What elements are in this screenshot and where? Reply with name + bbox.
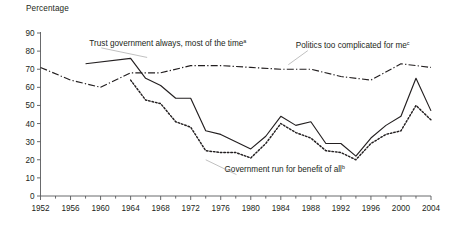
- x-tick-label: 2004: [422, 204, 441, 213]
- y-axis-tick-labels: 0102030405060708090: [25, 29, 35, 201]
- x-tick-label: 1960: [91, 204, 110, 213]
- x-axis-tick-labels: 1952195619601964196819721976198019841988…: [31, 204, 440, 213]
- y-tick-label: 10: [25, 174, 35, 183]
- x-tick-label: 1972: [182, 204, 201, 213]
- data-series-layer: [41, 58, 432, 159]
- percentage-trend-chart: Percentage 0102030405060708090 195219561…: [0, 0, 452, 233]
- y-axis-ticks: [37, 33, 41, 196]
- x-tick-label: 1988: [302, 204, 321, 213]
- y-tick-label: 50: [25, 101, 35, 110]
- chart-canvas: 0102030405060708090 19521956196019641968…: [0, 0, 452, 233]
- x-tick-label: 2000: [392, 204, 411, 213]
- x-tick-label: 1992: [332, 204, 351, 213]
- x-tick-label: 1996: [362, 204, 381, 213]
- x-tick-label: 1984: [272, 204, 291, 213]
- politics-complicated-label-leader: [288, 51, 308, 65]
- x-tick-label: 1980: [242, 204, 261, 213]
- x-tick-label: 1964: [122, 204, 141, 213]
- x-tick-label: 1968: [152, 204, 171, 213]
- x-tick-label: 1952: [31, 204, 50, 213]
- y-tick-label: 60: [25, 83, 35, 92]
- y-tick-label: 40: [25, 120, 35, 129]
- series-line-1: [41, 64, 432, 88]
- annotation-layer: Trust government always, most of the tim…: [89, 38, 410, 175]
- y-axis-group: 0102030405060708090: [25, 29, 40, 201]
- y-tick-label: 0: [30, 192, 35, 201]
- y-tick-label: 30: [25, 138, 35, 147]
- x-tick-label: 1956: [61, 204, 80, 213]
- trust-government-label: Trust government always, most of the tim…: [89, 38, 246, 48]
- y-tick-label: 90: [25, 29, 35, 38]
- y-tick-label: 80: [25, 47, 35, 56]
- y-tick-label: 20: [25, 156, 35, 165]
- government-benefit-all-label: Government run for benefit of allb: [224, 164, 344, 174]
- x-axis-ticks: [41, 196, 432, 200]
- politics-complicated-label: Politics too complicated for mec: [296, 40, 410, 50]
- x-axis-group: 1952195619601964196819721976198019841988…: [31, 196, 440, 213]
- trust-government-label-leader: [101, 48, 147, 58]
- x-tick-label: 1976: [212, 204, 231, 213]
- series-line-2: [131, 80, 431, 160]
- y-tick-label: 70: [25, 65, 35, 74]
